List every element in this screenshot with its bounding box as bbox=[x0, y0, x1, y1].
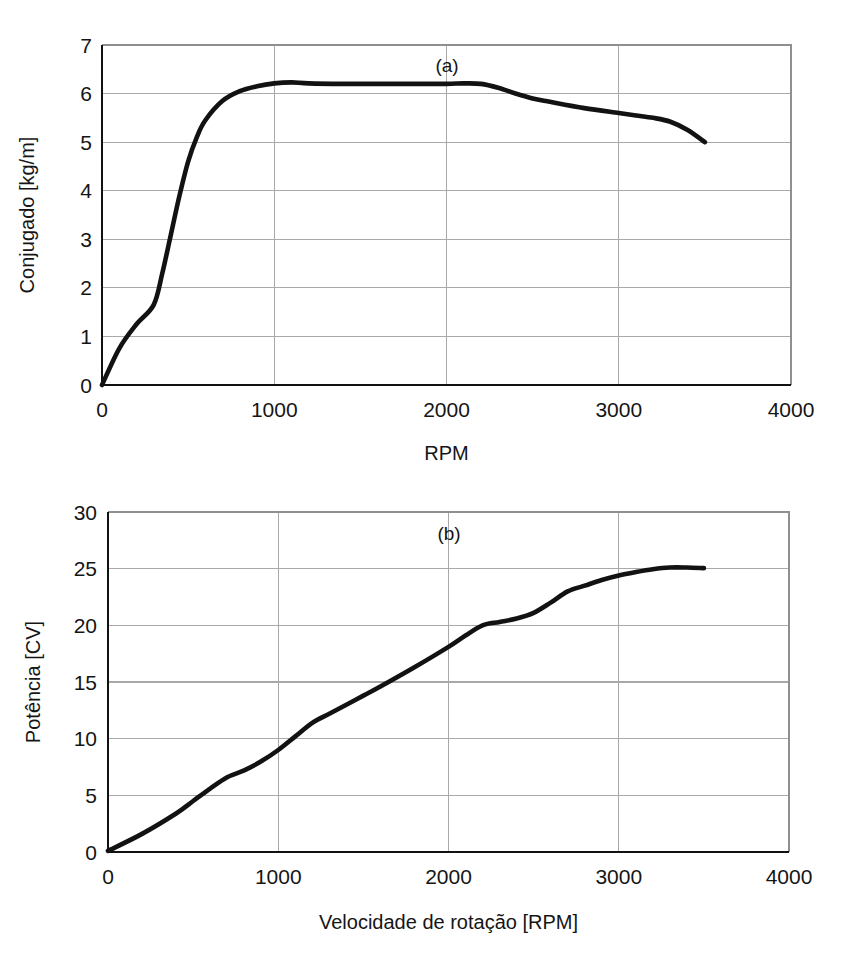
y-tick-label: 7 bbox=[80, 34, 92, 57]
y-tick-label: 10 bbox=[74, 727, 97, 750]
x-tick-label: 4000 bbox=[768, 398, 815, 421]
chart-b-svg: 0 5 10 15 20 25 30 0 1000 2000 3000 4000… bbox=[0, 480, 844, 958]
chart-b-x-axis-title: Velocidade de rotação [RPM] bbox=[319, 911, 578, 933]
y-tick-label: 5 bbox=[85, 784, 97, 807]
x-tick-label: 0 bbox=[96, 398, 108, 421]
chart-b-y-tick-labels: 0 5 10 15 20 25 30 bbox=[74, 501, 97, 864]
y-tick-label: 25 bbox=[74, 557, 97, 580]
figure-container: 0 1 2 3 4 5 6 7 0 1000 2000 3000 4000 RP… bbox=[0, 0, 844, 958]
x-tick-label: 2000 bbox=[423, 398, 470, 421]
chart-a-torque-curve bbox=[102, 82, 705, 385]
y-tick-label: 1 bbox=[80, 325, 92, 348]
chart-a-x-axis-title: RPM bbox=[424, 442, 468, 464]
y-tick-label: 5 bbox=[80, 131, 92, 154]
chart-a-y-axis-title: Conjugado [kg/m] bbox=[16, 137, 38, 294]
y-tick-label: 6 bbox=[80, 82, 92, 105]
x-tick-label: 1000 bbox=[255, 865, 302, 888]
y-tick-label: 30 bbox=[74, 501, 97, 524]
chart-b-x-tick-labels: 0 1000 2000 3000 4000 bbox=[102, 865, 812, 888]
chart-a-y-tick-labels: 0 1 2 3 4 5 6 7 bbox=[80, 34, 92, 397]
x-tick-label: 3000 bbox=[595, 398, 642, 421]
y-tick-label: 20 bbox=[74, 614, 97, 637]
chart-a-svg: 0 1 2 3 4 5 6 7 0 1000 2000 3000 4000 RP… bbox=[0, 0, 844, 480]
chart-b-panel-tag: (b) bbox=[437, 523, 460, 544]
chart-panel-a: 0 1 2 3 4 5 6 7 0 1000 2000 3000 4000 RP… bbox=[0, 0, 844, 480]
y-tick-label: 0 bbox=[85, 841, 97, 864]
chart-a-panel-tag: (a) bbox=[435, 55, 458, 76]
x-tick-label: 2000 bbox=[425, 865, 472, 888]
y-tick-label: 2 bbox=[80, 276, 92, 299]
y-tick-label: 3 bbox=[80, 228, 92, 251]
y-tick-label: 4 bbox=[80, 179, 92, 202]
chart-b-y-axis-title: Potência [CV] bbox=[22, 621, 44, 743]
chart-panel-b: 0 5 10 15 20 25 30 0 1000 2000 3000 4000… bbox=[0, 480, 844, 958]
x-tick-label: 4000 bbox=[766, 865, 813, 888]
y-tick-label: 15 bbox=[74, 671, 97, 694]
y-tick-label: 0 bbox=[80, 374, 92, 397]
chart-a-x-tick-labels: 0 1000 2000 3000 4000 bbox=[96, 398, 814, 421]
chart-a-gridlines-vertical bbox=[274, 45, 619, 385]
x-tick-label: 3000 bbox=[595, 865, 642, 888]
chart-b-power-curve bbox=[108, 567, 704, 850]
x-tick-label: 1000 bbox=[251, 398, 298, 421]
x-tick-label: 0 bbox=[102, 865, 114, 888]
